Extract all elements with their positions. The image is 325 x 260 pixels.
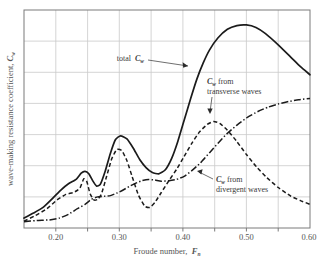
x-tick-label: 0.30 xyxy=(112,232,127,242)
annotation-divergent-line2: divergent waves xyxy=(216,185,268,194)
x-tick-labels: 0.20 0.30 0.40 0.50 0.60 xyxy=(48,232,316,242)
x-tick-marks xyxy=(56,228,278,232)
wave-making-resistance-chart: 0.20 0.30 0.40 0.50 0.60 Froude number, … xyxy=(0,0,325,260)
annotation-divergent-rest: from xyxy=(227,175,243,184)
annotation-transverse-line2: transverse waves xyxy=(207,87,261,96)
annotation-transverse-line1: Cw from xyxy=(207,77,234,87)
y-axis-title-subscript: w xyxy=(10,52,16,56)
annotation-transverse-rest: from xyxy=(218,77,234,86)
x-tick-label: 0.20 xyxy=(48,232,63,242)
annotation-total-subscript: w xyxy=(140,58,144,64)
annotation-divergent-line1: Cw from xyxy=(216,175,243,185)
x-tick-label: 0.40 xyxy=(175,232,190,242)
x-axis-title-subscript: n xyxy=(197,251,200,257)
chart-svg: 0.20 0.30 0.40 0.50 0.60 Froude number, … xyxy=(0,0,325,260)
x-axis-title: Froude number, Fn xyxy=(134,246,201,257)
x-tick-label: 0.60 xyxy=(302,232,317,242)
annotation-total-prefix: total xyxy=(117,54,132,63)
annotation-total-cw-label: total Cw xyxy=(117,54,145,64)
plot-background xyxy=(24,10,310,228)
y-axis-title-text: wave-making resistance coefficient, xyxy=(5,64,15,186)
x-tick-label: 0.50 xyxy=(239,232,254,242)
y-axis-title: wave-making resistance coefficient, Cw xyxy=(5,52,16,186)
x-axis-title-text: Froude number, xyxy=(134,246,188,256)
